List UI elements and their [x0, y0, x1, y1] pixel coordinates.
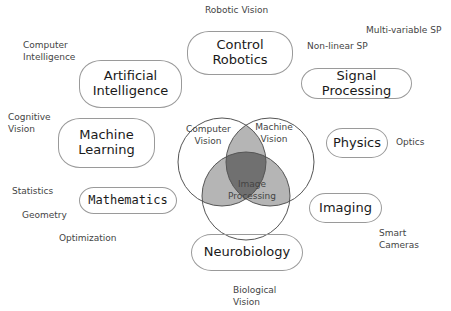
- sc-line2: Cameras: [379, 240, 419, 252]
- mv-line2: Vision: [252, 134, 296, 146]
- cognitive-vision-label: Cognitive Vision: [8, 112, 51, 135]
- artificial-intelligence-bubble: Artificial Intelligence: [79, 60, 182, 108]
- cog-line2: Vision: [8, 124, 51, 136]
- cog-line1: Cognitive: [8, 112, 51, 124]
- smart-cameras-label: Smart Cameras: [379, 228, 419, 251]
- machine-learning-bubble: Machine Learning: [58, 118, 155, 168]
- machine-vision-label: Machine Vision: [252, 122, 296, 145]
- computer-intelligence-label: Computer Intelligence: [23, 40, 75, 63]
- computer-vision-label: Computer Vision: [186, 124, 230, 147]
- control-robotics-bubble: Control Robotics: [187, 31, 293, 75]
- ci-line1: Computer: [23, 40, 75, 52]
- sc-line1: Smart: [379, 228, 419, 240]
- multi-variable-sp-label: Multi-variable SP: [366, 25, 441, 37]
- control-text: Control: [217, 38, 264, 53]
- cv-line2: Vision: [186, 136, 230, 148]
- optimization-label: Optimization: [59, 233, 117, 245]
- ai-line1: Artificial: [104, 69, 157, 84]
- physics-bubble: Physics: [326, 128, 388, 158]
- ml-line2: Learning: [78, 143, 134, 158]
- ip-line2: Processing: [226, 191, 278, 203]
- cv-line1: Computer: [186, 124, 230, 136]
- bv-line2: Vision: [233, 297, 276, 309]
- signal-processing-text: Signal Processing: [302, 69, 411, 99]
- ci-line2: Intelligence: [23, 52, 75, 64]
- mathematics-bubble: Mathematics: [79, 187, 177, 214]
- imaging-text: Imaging: [319, 201, 372, 216]
- ai-line2: Intelligence: [93, 84, 169, 99]
- ip-line1: Image: [226, 179, 278, 191]
- ml-line1: Machine: [79, 128, 133, 143]
- optics-label: Optics: [396, 137, 424, 149]
- mv-line1: Machine: [252, 122, 296, 134]
- non-linear-sp-label: Non-linear SP: [307, 41, 368, 53]
- signal-processing-bubble: Signal Processing: [301, 68, 412, 99]
- statistics-label: Statistics: [12, 186, 53, 198]
- neurobiology-text: Neurobiology: [204, 245, 290, 260]
- imaging-bubble: Imaging: [309, 193, 382, 223]
- mathematics-text: Mathematics: [88, 194, 167, 208]
- image-processing-label: Image Processing: [226, 179, 278, 202]
- geometry-label: Geometry: [22, 210, 67, 222]
- robotics-text: Robotics: [212, 53, 267, 68]
- robotic-vision-label: Robotic Vision: [205, 5, 268, 17]
- computer-vision-diagram: Computer Vision Machine Vision Image Pro…: [0, 0, 451, 311]
- neurobiology-bubble: Neurobiology: [191, 234, 303, 271]
- biological-vision-label: Biological Vision: [233, 285, 276, 308]
- physics-text: Physics: [333, 136, 381, 151]
- bv-line1: Biological: [233, 285, 276, 297]
